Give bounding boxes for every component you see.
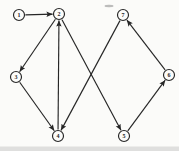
directed-graph-figure: 1234567 <box>0 0 179 151</box>
graph-node-5: 5 <box>119 131 130 142</box>
node-label-5: 5 <box>123 133 126 139</box>
scan-smudge <box>105 5 114 7</box>
node-label-4: 4 <box>57 133 60 139</box>
graph-node-6: 6 <box>164 70 175 81</box>
scan-edge-band <box>0 147 179 152</box>
graph-node-7: 7 <box>118 10 129 21</box>
graph-node-3: 3 <box>11 72 22 83</box>
node-label-3: 3 <box>15 74 18 80</box>
node-label-6: 6 <box>168 72 171 78</box>
node-label-7: 7 <box>122 12 125 18</box>
node-label-2: 2 <box>58 11 61 17</box>
graph-node-1: 1 <box>14 10 25 21</box>
node-label-1: 1 <box>18 12 21 18</box>
edge-1-to-2 <box>25 14 52 15</box>
graph-node-4: 4 <box>53 131 64 142</box>
graph-canvas: 1234567 <box>0 0 179 151</box>
paper-background <box>0 0 179 151</box>
graph-node-2: 2 <box>54 9 65 20</box>
